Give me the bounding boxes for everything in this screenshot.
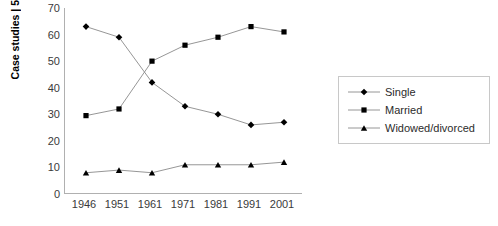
data-point-marker-square	[149, 59, 154, 64]
series-line	[86, 27, 284, 125]
x-axis-tick-label: 1991	[237, 198, 261, 210]
y-axis-tick-label: 70	[48, 2, 60, 14]
series-widowed-divorced	[83, 159, 287, 175]
y-axis-tick-label: 50	[48, 55, 60, 67]
legend-item-label: Widowed/divorced	[381, 122, 475, 134]
series-line	[86, 27, 284, 116]
legend-marker-triangle-icon	[347, 121, 381, 135]
series-single	[83, 23, 288, 128]
y-axis-tick-label: 0	[54, 188, 60, 200]
data-point-marker-diamond	[281, 119, 288, 126]
data-point-marker-square	[182, 43, 187, 48]
legend-item-label: Married	[381, 104, 422, 116]
y-axis-title: Case studies | 5	[0, 0, 30, 190]
legend-marker-diamond-icon	[347, 85, 381, 99]
y-axis-tick-labels: 010203040506070	[34, 8, 60, 194]
y-axis-tick-label: 40	[48, 82, 60, 94]
data-point-marker-square	[116, 106, 121, 111]
x-axis-tick-label: 1981	[204, 198, 228, 210]
x-axis-tick-label: 1946	[72, 198, 96, 210]
y-axis-tick-label: 30	[48, 108, 60, 120]
plot-wrapper: 010203040506070 194619511961197119811991…	[34, 8, 302, 214]
legend-item: Widowed/divorced	[347, 119, 483, 137]
y-axis-tick-label: 60	[48, 29, 60, 41]
data-point-marker-diamond	[248, 122, 255, 129]
chart-legend: SingleMarriedWidowed/divorced	[338, 76, 490, 144]
y-axis-tick-label: 10	[48, 161, 60, 173]
y-axis-tick-label: 20	[48, 135, 60, 147]
x-axis-tick-label: 1971	[171, 198, 195, 210]
data-point-marker-diamond	[361, 89, 368, 96]
y-axis-title-text: Case studies | 5	[9, 0, 21, 85]
data-point-marker-diamond	[83, 23, 90, 30]
data-point-marker-diamond	[215, 111, 222, 118]
data-point-marker-diamond	[149, 79, 156, 86]
plot-area	[64, 8, 302, 194]
legend-item-label: Single	[381, 86, 416, 98]
x-axis-tick-labels: 1946195119611971198119912001	[62, 196, 302, 214]
data-point-marker-square	[83, 113, 88, 118]
x-axis-tick-label: 1951	[105, 198, 129, 210]
data-point-marker-diamond	[182, 103, 189, 110]
line-chart: Case studies | 5 010203040506070 1946195…	[0, 0, 498, 226]
x-axis-tick-label: 2001	[270, 198, 294, 210]
data-point-marker-square	[361, 107, 366, 112]
legend-item: Married	[347, 101, 483, 119]
data-point-marker-square	[281, 29, 286, 34]
plot-svg	[64, 8, 302, 194]
data-point-marker-square	[248, 24, 253, 29]
x-axis-tick-label: 1961	[138, 198, 162, 210]
legend-marker-square-icon	[347, 103, 381, 117]
legend-item: Single	[347, 83, 483, 101]
data-point-marker-square	[215, 35, 220, 40]
data-point-marker-diamond	[116, 34, 123, 41]
